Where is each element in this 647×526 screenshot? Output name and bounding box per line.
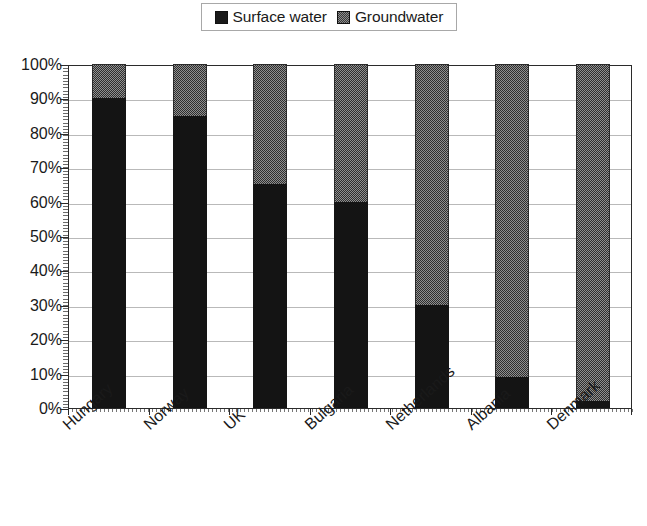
chart-container: 100%90%80%70%60%50%40%30%20%10%0% Hungar… [0,0,647,526]
y-axis-labels: 100%90%80%70%60%50%40%30%20%10%0% [0,65,62,409]
bar-segment-groundwater [253,64,287,184]
bar-segment-surface-water [92,98,126,408]
y-axis-major-ticks [60,65,68,409]
y-axis-tick-label: 10% [30,367,62,383]
y-axis-tick-label: 20% [30,332,62,348]
bar-bulgaria [334,64,368,408]
bar-segment-groundwater [334,64,368,202]
bar-uk [253,64,287,408]
y-axis-tick-label: 40% [30,263,62,279]
bar-segment-groundwater [576,64,610,401]
plot-area [68,65,632,409]
x-axis-category-labels: HungaryNorwayUKBulgariaNetherlandsAlbani… [0,409,647,526]
y-axis-tick-label: 100% [21,57,62,73]
y-axis-tick-label: 60% [30,195,62,211]
bar-segment-groundwater [415,64,449,305]
bar-segment-surface-water [334,202,368,408]
bar-segment-groundwater [92,64,126,98]
y-axis-tick-label: 50% [30,229,62,245]
bar-segment-surface-water [253,184,287,408]
bar-segment-groundwater [173,64,207,116]
bar-hungary [92,64,126,408]
bar-segment-surface-water [173,116,207,408]
y-axis-tick-label: 90% [30,91,62,107]
bar-segment-groundwater [495,64,529,377]
bar-denmark [576,64,610,408]
bar-netherlands [415,64,449,408]
bar-norway [173,64,207,408]
bar-albania [495,64,529,408]
y-axis-tick-label: 80% [30,126,62,142]
y-axis-tick-label: 70% [30,160,62,176]
y-axis-tick-label: 30% [30,298,62,314]
x-axis-label-uk: UK [221,406,248,433]
